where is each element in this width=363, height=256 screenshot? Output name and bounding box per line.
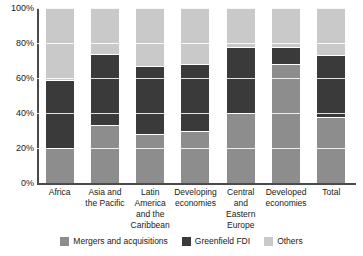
legend-swatch-icon: [264, 237, 273, 246]
y-axis-tick-label: 60%: [0, 74, 34, 83]
bar-group: [263, 8, 308, 183]
bar-group: [37, 8, 82, 183]
stacked-bar: [272, 8, 300, 183]
y-axis-tick-labels: 0%20%40%60%80%100%: [0, 8, 34, 183]
bar-group: [218, 8, 263, 183]
bar-segment: [136, 66, 164, 134]
x-axis-category-labels: AfricaAsia and the PacificLatin America …: [37, 187, 354, 231]
bar-segment: [181, 64, 209, 131]
x-axis-category-label: Africa: [37, 187, 82, 231]
bar-segment: [136, 134, 164, 183]
bar-segment: [317, 8, 345, 55]
x-axis-category-label: Asia and the Pacific: [82, 187, 127, 231]
bar-segment: [46, 8, 74, 80]
bar-segment: [91, 8, 119, 54]
bar-segment: [181, 8, 209, 64]
bar-segment: [272, 47, 300, 65]
x-axis-category-label: Developed economies: [263, 187, 308, 231]
stacked-bar: [227, 8, 255, 183]
x-axis-category-label: Central and Eastern Europe: [218, 187, 263, 231]
stacked-bar: [181, 8, 209, 183]
x-axis-category-label: Total: [309, 187, 354, 231]
legend-label: Greenfield FDI: [195, 237, 250, 246]
y-axis-tick-label: 80%: [0, 39, 34, 48]
bar-segment: [46, 80, 74, 148]
bar-series-container: [37, 8, 354, 183]
bar-group: [309, 8, 354, 183]
bar-group: [128, 8, 173, 183]
legend-swatch-icon: [60, 237, 69, 246]
bar-segment: [272, 8, 300, 47]
bar-segment: [272, 64, 300, 183]
bar-group: [173, 8, 218, 183]
bar-segment: [227, 113, 255, 183]
legend-label: Mergers and acquisitions: [73, 237, 168, 246]
bar-segment: [227, 8, 255, 47]
bar-segment: [46, 148, 74, 183]
bar-segment: [91, 54, 119, 126]
bar-segment: [91, 125, 119, 183]
stacked-bar-chart: 0%20%40%60%80%100% AfricaAsia and the Pa…: [0, 0, 363, 256]
bar-segment: [181, 131, 209, 184]
stacked-bar: [46, 8, 74, 183]
y-axis-tick-label: 100%: [0, 4, 34, 13]
x-axis-category-label: Latin America and the Caribbean: [128, 187, 173, 231]
x-axis-line: [37, 183, 356, 185]
legend-label: Others: [277, 237, 303, 246]
stacked-bar: [317, 8, 345, 183]
bar-group: [82, 8, 127, 183]
chart-legend: Mergers and acquisitionsGreenfield FDIOt…: [0, 237, 363, 246]
stacked-bar: [91, 8, 119, 183]
plot-area: [37, 8, 354, 183]
legend-swatch-icon: [182, 237, 191, 246]
x-axis-category-label: Developing economies: [173, 187, 218, 231]
legend-item: Greenfield FDI: [182, 237, 250, 246]
legend-item: Mergers and acquisitions: [60, 237, 168, 246]
bar-segment: [136, 8, 164, 66]
y-axis-tick-label: 40%: [0, 109, 34, 118]
legend-item: Others: [264, 237, 303, 246]
bar-segment: [317, 55, 345, 116]
y-axis-tick-label: 0%: [0, 179, 34, 188]
bar-segment: [317, 117, 345, 184]
y-axis-tick-label: 20%: [0, 144, 34, 153]
stacked-bar: [136, 8, 164, 183]
bar-segment: [227, 47, 255, 114]
